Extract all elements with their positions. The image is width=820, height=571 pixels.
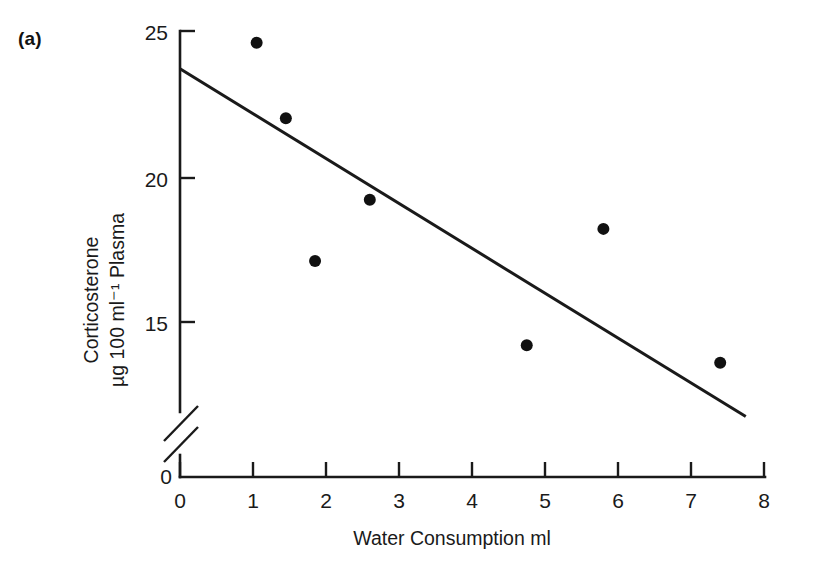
figure-panel-a: (a) Corticosterone µg 100 ml⁻¹ Plasma 25… (0, 0, 820, 571)
data-point (364, 194, 376, 206)
x-tick-label-7: 7 (685, 489, 697, 512)
y-axis-title: Corticosterone µg 100 ml⁻¹ Plasma (80, 213, 128, 387)
y-tick-label-25: 25 (145, 21, 168, 44)
y-tick-label-20: 20 (145, 168, 168, 191)
trend-line (180, 69, 746, 417)
x-tick-label-1: 1 (247, 489, 259, 512)
data-point (309, 255, 321, 267)
data-point (521, 339, 533, 351)
y-tick-label-0: 0 (160, 465, 172, 488)
data-point (280, 112, 292, 124)
x-tick-labels: 0 1 2 3 4 5 6 7 8 (174, 489, 770, 512)
y-tick-labels: 25 20 15 0 (145, 21, 172, 488)
x-tick-label-0: 0 (174, 489, 186, 512)
x-axis-title: Water Consumption ml (353, 527, 551, 549)
y-axis-title-line1: Corticosterone (80, 237, 102, 364)
y-axis-title-line2: µg 100 ml⁻¹ Plasma (106, 213, 128, 387)
x-tick-label-6: 6 (612, 489, 624, 512)
data-point (714, 357, 726, 369)
x-tick-label-2: 2 (320, 489, 332, 512)
x-tick-label-3: 3 (393, 489, 405, 512)
x-tick-label-5: 5 (539, 489, 551, 512)
y-tick-label-15: 15 (145, 312, 168, 335)
x-tick-label-8: 8 (758, 489, 770, 512)
x-tick-marks (180, 462, 764, 477)
y-axis-break-icon (164, 406, 198, 462)
scatter-plot: Corticosterone µg 100 ml⁻¹ Plasma 25 20 … (0, 0, 820, 571)
data-point (597, 223, 609, 235)
data-point (251, 37, 263, 49)
x-tick-label-4: 4 (466, 489, 478, 512)
data-points-group (251, 37, 727, 369)
